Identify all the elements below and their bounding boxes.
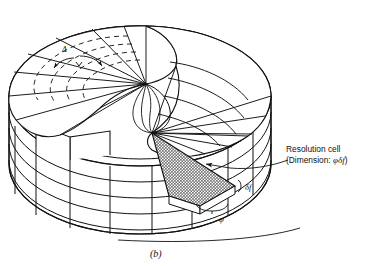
delta-f-label: δf [245,182,251,192]
resolution-cell-label-line2: (Dimension: φδf) [286,155,347,166]
dimension-suffix: ) [345,155,348,165]
theta-angle-label: Δ [62,45,67,54]
resolution-cell-label-line1: Resolution cell [286,145,347,155]
figure-caption: (b) [150,248,162,260]
figure-container: Resolution cell (Dimension: φδf) δf φ Δ … [0,0,372,266]
resolution-cell-diagram-svg [0,0,372,266]
phi-label: φ [219,214,224,224]
dimension-prefix: (Dimension: [286,155,333,165]
dimension-symbols: φδf [333,155,345,165]
resolution-cell-label: Resolution cell (Dimension: φδf) [286,145,347,166]
